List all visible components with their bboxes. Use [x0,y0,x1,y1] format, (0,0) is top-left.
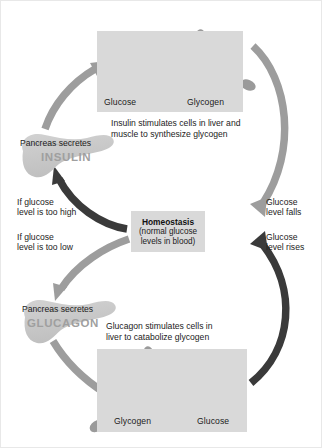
bottom-panel-glucose-label: Glucose [197,416,229,426]
label-glucose-level-rises: Glucose level rises [266,232,304,253]
pancreas-secretes-glucagon-label: Pancreas secretes [22,304,93,314]
glucagon-caption: Glucagon stimulates cells in liver to ca… [106,321,266,342]
arrow-glucose-level-rises [250,231,286,383]
homeostasis-box: Homeostasis (normal glucose levels in bl… [131,211,205,252]
homeostasis-diagram: Glucose Glycogen Glycogen Glucose Insuli… [0,0,322,448]
glucagon-hormone-label: GLUCAGON [27,317,99,329]
label-glucose-level-falls: Glucose level falls [266,197,301,218]
insulin-caption: Insulin stimulates cells in liver and mu… [111,118,271,139]
homeostasis-subtitle: (normal glucose levels in blood) [139,227,197,246]
homeostasis-title: Homeostasis [142,217,194,227]
label-if-glucose-too-low: If glucose level is too low [17,232,73,253]
top-panel-glucose-label: Glucose [104,97,136,107]
label-if-glucose-too-high: If glucose level is too high [17,197,76,218]
bottom-panel-glycogen-label: Glycogen [114,416,151,426]
insulin-hormone-label: INSULIN [41,151,91,163]
pancreas-secretes-insulin-label: Pancreas secretes [20,138,91,148]
top-panel-glycogen-label: Glycogen [187,97,224,107]
